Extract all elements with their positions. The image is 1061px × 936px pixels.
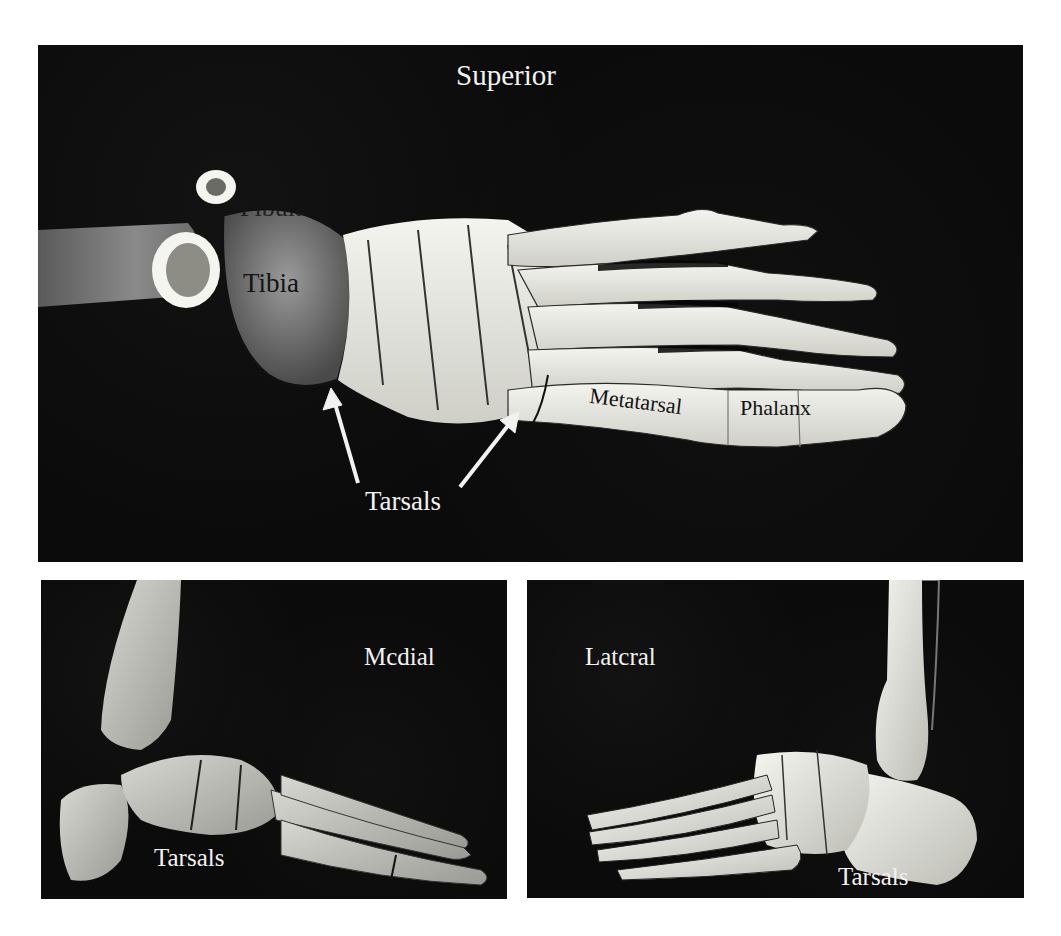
label-phalanx: Phalanx	[740, 397, 811, 419]
view-label-medial: Mcdial	[364, 644, 435, 669]
clipped-caption-line	[20, 0, 1020, 4]
view-label-lateral: Latcral	[585, 644, 656, 669]
panel-lateral-view: Latcral Tarsals	[527, 580, 1024, 898]
foot-skeleton-lateral-illustration	[527, 580, 1024, 898]
foot-skeleton-superior-illustration	[38, 45, 1023, 562]
label-tarsals-medial: Tarsals	[154, 845, 224, 870]
view-label-superior: Superior	[456, 61, 556, 90]
foot-skeleton-medial-illustration	[41, 580, 507, 899]
label-tibia: Tibia	[243, 270, 299, 297]
label-tarsals-lateral: Tarsals	[838, 864, 908, 889]
label-fibula: Fibula	[240, 195, 306, 221]
panel-medial-view: Mcdial Tarsals	[41, 580, 507, 899]
panel-superior-view: Superior Fibula Tibia Metatarsal Phalanx…	[38, 45, 1023, 562]
label-tarsals-superior: Tarsals	[365, 488, 441, 515]
